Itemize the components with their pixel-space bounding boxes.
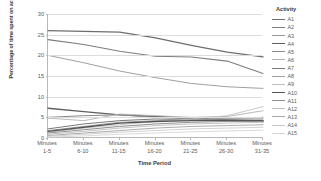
x-axis-tick-label: Minutes16-20 <box>145 140 165 155</box>
x-axis-tick-mark <box>155 137 156 140</box>
legend-item-a15[interactable]: A15 <box>272 129 318 137</box>
legend-item-a12[interactable]: A12 <box>272 105 318 113</box>
legend-swatch-icon <box>272 100 285 101</box>
legend-label: A6 <box>288 57 295 63</box>
x-axis-tick-label-line: Minutes <box>73 140 93 148</box>
line-chart-figure: Percentage of time spent on activities 0… <box>0 0 321 181</box>
legend-item-a4[interactable]: A4 <box>272 40 318 48</box>
legend-label: A3 <box>288 33 295 39</box>
x-axis-tick-label: Minutes21-25 <box>181 140 201 155</box>
x-axis-tick-mark <box>119 137 120 140</box>
legend-item-a7[interactable]: A7 <box>272 64 318 72</box>
legend-label: A12 <box>288 106 298 112</box>
x-axis-tick-label-line: 11-15 <box>109 148 129 156</box>
legend-swatch-icon <box>272 43 285 44</box>
legend-label: A4 <box>288 41 295 47</box>
legend-label: A5 <box>288 49 295 55</box>
legend-swatch-icon <box>272 19 285 20</box>
x-axis-tick-label-line: Minutes <box>252 140 272 148</box>
x-axis-tick-label: Minutes31-35 <box>252 140 272 155</box>
legend-item-a10[interactable]: A10 <box>272 88 318 96</box>
legend-item-a14[interactable]: A14 <box>272 121 318 129</box>
x-axis-tick-label-line: Minutes <box>109 140 129 148</box>
gridline <box>48 55 262 56</box>
gridline <box>48 117 262 118</box>
legend-item-a2[interactable]: A2 <box>272 23 318 31</box>
gridline <box>48 76 262 77</box>
x-axis-tick-mark <box>83 137 84 140</box>
legend-item-a11[interactable]: A11 <box>272 97 318 105</box>
legend-swatch-icon <box>272 59 285 60</box>
x-axis-title: Time Period <box>47 160 262 166</box>
legend-label: A9 <box>288 81 295 87</box>
gridline <box>48 35 262 36</box>
legend-item-a3[interactable]: A3 <box>272 31 318 39</box>
x-axis-tick-label: Minutes11-15 <box>109 140 129 155</box>
x-axis-tick-mark <box>226 137 227 140</box>
series-line-a3 <box>48 55 263 88</box>
legend-item-a5[interactable]: A5 <box>272 48 318 56</box>
x-axis-tick-mark <box>190 137 191 140</box>
legend-label: A10 <box>288 90 298 96</box>
x-axis-tick-label: Minutes6-10 <box>73 140 93 155</box>
legend-title: Activity <box>276 6 318 12</box>
x-axis-tick-label-line: 16-20 <box>145 148 165 156</box>
x-axis-tick-label: Minutes26-30 <box>216 140 236 155</box>
x-axis-tick-mark <box>262 137 263 140</box>
legend-items: A1A2A3A4A5A6A7A8A9A10A11A12A13A14A15 <box>272 15 318 137</box>
y-axis-tick-label: 5 <box>41 114 44 120</box>
legend-label: A1 <box>288 16 295 22</box>
y-axis-tick-label: 30 <box>38 11 44 17</box>
legend-label: A7 <box>288 65 295 71</box>
legend-item-a8[interactable]: A8 <box>272 72 318 80</box>
legend-label: A8 <box>288 73 295 79</box>
y-axis-tick-label: 25 <box>38 32 44 38</box>
legend-swatch-icon <box>272 76 285 77</box>
legend-item-a6[interactable]: A6 <box>272 56 318 64</box>
x-axis-tick-label-line: Minutes <box>216 140 236 148</box>
legend-item-a9[interactable]: A9 <box>272 80 318 88</box>
legend-swatch-icon <box>272 27 285 28</box>
legend-label: A2 <box>288 24 295 30</box>
x-axis-tick-label-line: 21-25 <box>181 148 201 156</box>
x-axis-tick-label: Minutes1-5 <box>37 140 57 155</box>
legend-label: A14 <box>288 122 298 128</box>
x-axis-tick-label-line: 26-30 <box>216 148 236 156</box>
y-axis-tick-label: 10 <box>38 94 44 100</box>
x-axis-tick-mark <box>47 137 48 140</box>
legend-item-a1[interactable]: A1 <box>272 15 318 23</box>
legend-swatch-icon <box>272 125 285 126</box>
series-line-a2 <box>48 40 263 74</box>
legend-swatch-icon <box>272 84 285 85</box>
legend-swatch-icon <box>272 116 285 117</box>
gridline <box>48 14 262 15</box>
legend-label: A15 <box>288 130 298 136</box>
plot-area <box>47 14 262 138</box>
y-axis-tick-label: 15 <box>38 73 44 79</box>
x-axis-tick-label-line: Minutes <box>181 140 201 148</box>
legend-label: A11 <box>288 98 297 104</box>
gridline <box>48 97 262 98</box>
y-axis-tick-label: 20 <box>38 52 44 58</box>
x-axis-tick-labels: Minutes1-5Minutes6-10Minutes11-15Minutes… <box>47 140 262 162</box>
legend-swatch-icon <box>272 108 285 109</box>
x-axis-tick-label-line: 1-5 <box>37 148 57 156</box>
legend-swatch-icon <box>272 51 285 52</box>
legend-swatch-icon <box>272 133 285 134</box>
y-axis-title: Percentage of time spent on activities <box>8 0 14 95</box>
x-axis-tick-label-line: Minutes <box>37 140 57 148</box>
x-axis-tick-label-line: 6-10 <box>73 148 93 156</box>
x-axis-tick-label-line: 31-35 <box>252 148 272 156</box>
legend-item-a13[interactable]: A13 <box>272 113 318 121</box>
legend-swatch-icon <box>272 92 285 93</box>
legend-swatch-icon <box>272 68 285 69</box>
legend-swatch-icon <box>272 35 285 36</box>
y-axis-tick-labels: 051015202530 <box>26 14 44 138</box>
legend-label: A13 <box>288 114 298 120</box>
x-axis-tick-label-line: Minutes <box>145 140 165 148</box>
legend: Activity A1A2A3A4A5A6A7A8A9A10A11A12A13A… <box>272 6 318 137</box>
